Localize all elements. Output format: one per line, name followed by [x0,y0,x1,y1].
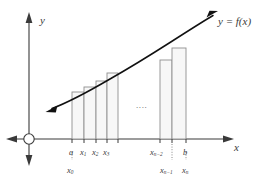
y-axis-label: y [40,15,45,26]
curve-arrowheads [46,11,219,113]
tick-label-xn-2: xn−2 [150,148,163,157]
x-axis-left-arrow-icon [6,136,17,143]
y-axis-down-arrow-icon [26,155,33,166]
rect-2 [84,87,96,139]
x-axis-ticks [72,139,186,143]
label-leaders [72,144,186,160]
curve-left-arrow-icon [46,106,58,113]
tick-label-xn-1-sub: n−1 [164,169,173,175]
tick-label-b-base: b [183,147,187,157]
tick-label-x1: x1 [80,148,86,157]
function-label: y = f(x) [218,16,251,27]
x-axis-label: x [234,142,239,153]
rect-4 [107,73,118,139]
y-axis-up-arrow-icon [26,12,33,23]
rect-n-1 [160,60,172,139]
rect-3 [96,81,107,139]
x-axis-right-arrow-icon [223,136,234,143]
tick-label-x0: x0 [67,166,73,175]
riemann-sum-figure: y x y = f(x) .... a x1 x2 x3 xn−2 b x0 x… [0,0,261,188]
figure-canvas [0,0,261,188]
tick-label-a-base: a [69,147,73,157]
riemann-rectangles-group [72,48,186,139]
tick-label-xn-2-sub: n−2 [154,151,163,157]
rect-n [172,48,186,139]
tick-label-x2: x2 [92,148,98,157]
tick-label-x3: x3 [103,148,109,157]
axis-arrowheads [6,12,234,166]
tick-label-b: b [183,148,187,157]
tick-label-xn: xn [182,166,188,175]
ellipsis-label: .... [136,101,147,110]
origin-marker-icon [24,134,34,144]
tick-label-a: a [69,148,73,157]
tick-label-xn-1: xn−1 [160,166,173,175]
axes-group [12,18,228,160]
